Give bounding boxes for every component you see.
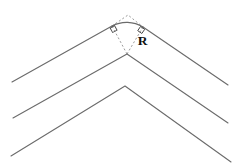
bend-radius-diagram: R [0,0,235,168]
dotted-radius-line-left [112,26,127,54]
outer-chevron-right-flank [143,27,228,85]
diagram-canvas: R [0,0,235,168]
radius-label: R [138,33,148,48]
inner-chevron-line [11,86,231,162]
outer-chevron-left-flank [12,26,112,82]
